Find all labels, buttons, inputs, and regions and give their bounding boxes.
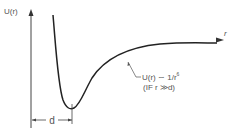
asymptote-formula: U(r) ∼ 1/r6	[142, 71, 180, 82]
formula-text: U(r) ∼ 1/r	[142, 73, 177, 82]
annotation-pointer	[128, 62, 142, 77]
potential-energy-diagram: d U(r) r U(r) ∼ 1/r6 (IF r ≫d)	[0, 0, 238, 135]
y-axis-label: U(r)	[4, 7, 18, 16]
formula-exponent: 6	[177, 71, 180, 77]
y-axis-arrow-icon	[29, 9, 34, 16]
x-axis-arrow-icon	[216, 38, 224, 43]
distance-marker: d	[32, 104, 72, 126]
distance-label: d	[49, 115, 55, 126]
x-axis	[31, 38, 224, 43]
y-axis	[29, 9, 34, 128]
asymptote-condition: (IF r ≫d)	[143, 83, 175, 92]
x-axis-label: r	[224, 29, 227, 38]
potential-curve	[53, 15, 217, 109]
